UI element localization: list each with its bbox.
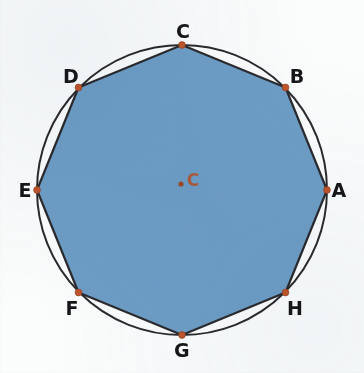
- vertex-label-a: A: [332, 181, 347, 200]
- vertex-dot-h: [282, 289, 289, 296]
- vertex-label-c: C: [176, 22, 190, 41]
- center-point-label: C: [187, 172, 199, 189]
- vertex-label-h: H: [287, 299, 303, 318]
- vertex-label-d: D: [63, 67, 79, 86]
- vertex-label-g: G: [174, 341, 190, 360]
- vertex-dot-c: [179, 42, 186, 49]
- vertex-label-b: B: [290, 67, 305, 86]
- vertex-dot-g: [179, 332, 186, 339]
- page-bottom-artifact: ............: [0, 369, 364, 373]
- vertex-dot-b: [282, 84, 289, 91]
- vertex-label-f: F: [65, 299, 78, 318]
- vertex-label-e: E: [18, 181, 31, 200]
- vertex-dot-f: [75, 289, 82, 296]
- vertex-dot-e: [34, 187, 41, 194]
- vertex-dot-a: [324, 187, 331, 194]
- figure-canvas: [0, 0, 364, 373]
- geometry-figure: A B C D E F G H C ............: [0, 0, 364, 373]
- center-point-dot: [178, 181, 183, 186]
